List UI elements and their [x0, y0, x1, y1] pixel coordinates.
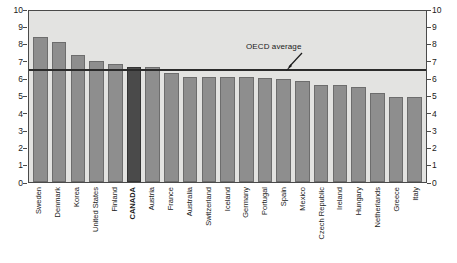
x-axis-label-slot: Portugal — [256, 185, 275, 263]
bar[interactable] — [52, 42, 67, 182]
x-axis-tick-label: Korea — [73, 187, 81, 207]
bar-slot — [181, 11, 200, 182]
bar-slot — [312, 11, 331, 182]
bar[interactable] — [89, 61, 104, 182]
x-axis-label-slot: Hungary — [350, 185, 369, 263]
bar-slot — [274, 11, 293, 182]
y-axis-tick-label: 10 — [14, 6, 23, 15]
y-axis-right: 109876543210 — [429, 10, 455, 183]
y-axis-tick-mark — [427, 96, 431, 97]
bar-slot — [368, 11, 387, 182]
bar[interactable] — [33, 37, 48, 182]
bar[interactable] — [145, 67, 160, 182]
y-axis-tick-mark — [427, 10, 431, 11]
bar-slot — [349, 11, 368, 182]
bar[interactable] — [71, 55, 86, 182]
bar-slot — [162, 11, 181, 182]
bar[interactable] — [389, 97, 404, 183]
bar-slot — [293, 11, 312, 182]
x-axis-label-slot: Spain — [275, 185, 294, 263]
y-axis-tick-mark — [427, 113, 431, 114]
y-axis-tick-mark — [23, 10, 27, 11]
x-axis-tick-label: Portugal — [261, 187, 269, 215]
bar[interactable] — [370, 93, 385, 182]
bar[interactable] — [183, 77, 198, 182]
y-axis-tick-mark — [23, 44, 27, 45]
y-axis-tick-mark — [427, 61, 431, 62]
y-axis-tick-label: 10 — [432, 6, 441, 15]
x-axis-tick-label: Greece — [393, 187, 401, 212]
x-axis-label-slot: CANADA — [124, 185, 143, 263]
bar-slot — [256, 11, 275, 182]
y-axis-tick-label: 2 — [432, 144, 437, 153]
bar-slot — [125, 11, 144, 182]
bar-slot — [31, 11, 50, 182]
y-axis-tick-mark — [23, 148, 27, 149]
y-axis-tick-label: 0 — [432, 179, 437, 188]
y-axis-tick-mark — [427, 79, 431, 80]
x-axis-label-slot: Germany — [237, 185, 256, 263]
y-axis-tick-label: 6 — [432, 75, 437, 84]
x-axis-tick-label: Switzerland — [205, 187, 213, 226]
y-axis-tick-mark — [427, 148, 431, 149]
x-axis-tick-label: Sweden — [36, 187, 44, 214]
bar-slot — [237, 11, 256, 182]
x-axis-tick-label: Iceland — [224, 187, 232, 211]
x-axis-label-slot: Netherlands — [369, 185, 388, 263]
bar[interactable] — [127, 67, 142, 182]
bar[interactable] — [407, 97, 422, 183]
x-axis-tick-label: Italy — [412, 187, 420, 201]
x-axis-label-slot: Denmark — [49, 185, 68, 263]
y-axis-tick-mark — [23, 27, 27, 28]
x-axis-tick-label: Denmark — [54, 187, 62, 217]
y-axis-tick-mark — [23, 165, 27, 166]
x-axis-tick-label: Germany — [243, 187, 251, 218]
bar[interactable] — [295, 81, 310, 182]
bar-slot — [199, 11, 218, 182]
x-axis-label-slot: Korea — [68, 185, 87, 263]
bar[interactable] — [220, 77, 235, 182]
plot-area — [28, 10, 427, 183]
y-axis-tick-mark — [23, 113, 27, 114]
x-axis-label-slot: Finland — [105, 185, 124, 263]
y-axis-tick-label: 9 — [432, 23, 437, 32]
y-axis-tick-label: 4 — [432, 110, 437, 119]
bar[interactable] — [202, 77, 217, 182]
y-axis-tick-mark — [23, 131, 27, 132]
bar[interactable] — [108, 64, 123, 182]
bar-slot — [387, 11, 406, 182]
y-axis-tick-label: 1 — [432, 161, 437, 170]
bar-series — [29, 11, 426, 182]
x-axis-tick-label: Finland — [111, 187, 119, 212]
y-axis-tick-label: 8 — [432, 40, 437, 49]
x-axis-tick-label: Ireland — [337, 187, 345, 210]
bar[interactable] — [276, 79, 291, 182]
bar[interactable] — [258, 78, 273, 182]
x-axis-tick-label: Hungary — [355, 187, 363, 215]
x-axis-tick-label: Spain — [280, 187, 288, 206]
x-axis-label-slot: Italy — [406, 185, 425, 263]
bar[interactable] — [351, 87, 366, 182]
x-axis-tick-label: Australia — [186, 187, 194, 216]
x-axis-label-slot: Sweden — [30, 185, 49, 263]
x-axis-tick-label: Mexico — [299, 187, 307, 211]
oecd-average-label: OECD average — [246, 42, 301, 51]
y-axis-tick-mark — [427, 44, 431, 45]
y-axis-tick-mark — [23, 183, 27, 184]
x-axis-label-slot: Australia — [181, 185, 200, 263]
bar[interactable] — [333, 85, 348, 182]
x-axis-label-slot: Mexico — [293, 185, 312, 263]
bar-slot — [106, 11, 125, 182]
bar[interactable] — [164, 73, 179, 182]
bar[interactable] — [314, 85, 329, 182]
x-axis-tick-label: France — [167, 187, 175, 210]
x-axis-tick-label: Austria — [149, 187, 157, 210]
y-axis-tick-label: 5 — [432, 92, 437, 101]
bar-slot — [50, 11, 69, 182]
bar-slot — [68, 11, 87, 182]
x-axis-tick-label: CANADA — [130, 187, 138, 220]
x-axis-label-slot: Greece — [387, 185, 406, 263]
bar[interactable] — [239, 77, 254, 182]
x-axis-label-slot: Switzerland — [199, 185, 218, 263]
x-axis-label-slot: United States — [86, 185, 105, 263]
